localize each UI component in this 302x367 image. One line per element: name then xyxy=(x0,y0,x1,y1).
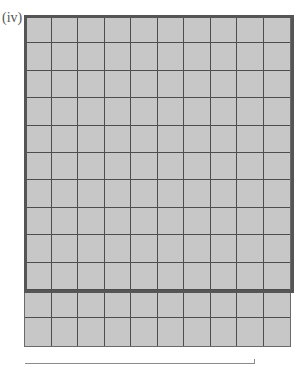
grid-cell xyxy=(158,16,185,43)
grid-cell xyxy=(105,16,132,43)
grid-cell xyxy=(52,318,79,346)
grid-cell xyxy=(237,126,264,153)
grid-cell xyxy=(158,71,185,98)
grid-cell xyxy=(25,153,52,180)
answer-box-edge xyxy=(254,359,255,364)
grid-cell xyxy=(264,208,291,235)
grid-cell xyxy=(184,290,211,318)
grid-cell xyxy=(237,180,264,207)
grid-cell xyxy=(264,235,291,262)
grid-cell xyxy=(78,263,105,290)
grid-cell xyxy=(237,98,264,125)
grid-cell xyxy=(131,290,158,318)
grid-cell xyxy=(237,16,264,43)
grid xyxy=(25,16,290,346)
grid-cell xyxy=(131,318,158,346)
grid-cell xyxy=(158,235,185,262)
grid-cell xyxy=(105,153,132,180)
grid-cell xyxy=(211,235,238,262)
grid-cell xyxy=(25,126,52,153)
grid-cell xyxy=(25,208,52,235)
grid-cell xyxy=(211,126,238,153)
grid-cell xyxy=(78,318,105,346)
grid-cell xyxy=(52,43,79,70)
grid-cell xyxy=(52,126,79,153)
grid-cell xyxy=(184,208,211,235)
grid-cell xyxy=(211,263,238,290)
grid-cell xyxy=(158,290,185,318)
grid-cell xyxy=(237,235,264,262)
grid-cell xyxy=(78,208,105,235)
grid-cell xyxy=(158,43,185,70)
grid-cell xyxy=(131,43,158,70)
grid-cell xyxy=(78,98,105,125)
grid-cell xyxy=(25,263,52,290)
grid-cell xyxy=(184,180,211,207)
grid-cell xyxy=(52,153,79,180)
grid-cell xyxy=(158,98,185,125)
grid-cell xyxy=(105,180,132,207)
grid-cell xyxy=(52,180,79,207)
grid-cell xyxy=(131,180,158,207)
grid-cell xyxy=(237,318,264,346)
grid-cell xyxy=(211,43,238,70)
grid-cell xyxy=(237,153,264,180)
grid-cell xyxy=(264,71,291,98)
grid-cell xyxy=(184,98,211,125)
grid-cell xyxy=(264,98,291,125)
grid-cell xyxy=(105,235,132,262)
grid-cell xyxy=(105,290,132,318)
grid-cell xyxy=(211,16,238,43)
grid-cell xyxy=(184,43,211,70)
grid-cell xyxy=(25,98,52,125)
grid-cell xyxy=(264,263,291,290)
grid-cell xyxy=(184,318,211,346)
grid-cell xyxy=(184,71,211,98)
grid-cell xyxy=(237,43,264,70)
grid-cell xyxy=(105,318,132,346)
grid-cell xyxy=(78,43,105,70)
grid-cell xyxy=(25,290,52,318)
grid-cell xyxy=(78,290,105,318)
grid-cell xyxy=(211,180,238,207)
answer-box-line[interactable] xyxy=(25,363,255,364)
grid-cell xyxy=(78,126,105,153)
hundred-grid-figure xyxy=(25,16,290,346)
grid-cell xyxy=(25,16,52,43)
grid-cell xyxy=(25,43,52,70)
grid-cell xyxy=(158,153,185,180)
grid-cell xyxy=(131,235,158,262)
grid-cell xyxy=(52,98,79,125)
grid-cell xyxy=(264,16,291,43)
grid-cell xyxy=(131,98,158,125)
grid-cell xyxy=(105,43,132,70)
grid-cell xyxy=(211,318,238,346)
grid-cell xyxy=(264,126,291,153)
grid-cell xyxy=(78,71,105,98)
grid-cell xyxy=(184,263,211,290)
question-label: (iv) xyxy=(2,10,22,26)
grid-cell xyxy=(264,290,291,318)
grid-cell xyxy=(52,290,79,318)
grid-cell xyxy=(78,235,105,262)
grid-cell xyxy=(237,263,264,290)
grid-cell xyxy=(184,126,211,153)
grid-cell xyxy=(131,71,158,98)
grid-cell xyxy=(25,180,52,207)
grid-cell xyxy=(237,208,264,235)
grid-cell xyxy=(25,235,52,262)
grid-cell xyxy=(105,126,132,153)
grid-cell xyxy=(78,180,105,207)
grid-cell xyxy=(131,153,158,180)
grid-cell xyxy=(184,16,211,43)
grid-cell xyxy=(158,126,185,153)
grid-cell xyxy=(131,263,158,290)
grid-cell xyxy=(184,235,211,262)
grid-cell xyxy=(264,318,291,346)
grid-cell xyxy=(158,180,185,207)
grid-cell xyxy=(184,153,211,180)
grid-cell xyxy=(264,180,291,207)
grid-cell xyxy=(52,71,79,98)
grid-cell xyxy=(131,16,158,43)
grid-cell xyxy=(131,208,158,235)
